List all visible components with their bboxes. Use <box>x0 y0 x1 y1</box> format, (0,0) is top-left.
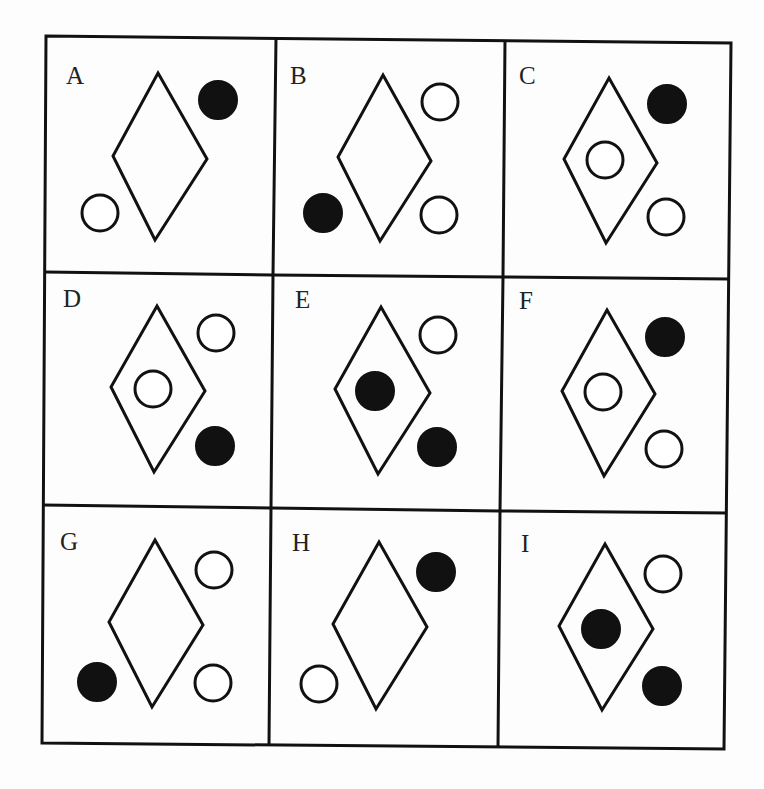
cell-label: I <box>521 530 529 557</box>
hollow-circle-bottom-right <box>195 665 231 701</box>
cell-i: I <box>521 530 681 710</box>
diamond-shape <box>109 540 203 707</box>
cell-label: H <box>292 529 310 556</box>
filled-circle-top-right <box>417 553 455 591</box>
filled-circle-bottom-right <box>643 667 681 705</box>
cell-c: C <box>519 62 686 243</box>
cell-label: G <box>60 528 78 555</box>
cell-e: E <box>295 286 456 474</box>
cell-label: B <box>290 62 307 89</box>
filled-circle-top-right <box>199 81 237 119</box>
cell-label: D <box>63 285 81 312</box>
filled-circle-inside-diamond <box>356 372 394 410</box>
filled-circle-bottom-right <box>196 427 234 465</box>
hollow-circle-inside-diamond <box>135 371 171 407</box>
filled-circle-bottom-right <box>418 428 456 466</box>
hollow-circle-bottom-right <box>421 197 457 233</box>
filled-circle-bottom-left <box>304 194 342 232</box>
filled-circle-top-right <box>648 85 686 123</box>
grid-row-divider-2 <box>43 505 727 513</box>
cell-label: C <box>519 62 536 89</box>
cell-label: E <box>295 286 310 313</box>
hollow-circle-top-right <box>198 315 234 351</box>
cell-label: F <box>519 287 533 314</box>
cell-f: F <box>519 287 684 476</box>
filled-circle-top-right <box>646 318 684 356</box>
cell-a: A <box>66 62 237 240</box>
hollow-circle-bottom-right <box>646 431 682 467</box>
hollow-circle-inside-diamond <box>587 142 623 178</box>
hollow-circle-bottom-left <box>301 666 337 702</box>
cell-label: A <box>66 62 84 89</box>
cell-g: G <box>60 528 232 707</box>
hollow-circle-top-right <box>420 317 456 353</box>
diamond-shape <box>113 73 207 240</box>
filled-circle-inside-diamond <box>582 610 620 648</box>
grid-col-divider-2 <box>498 40 505 747</box>
cells-layer: ABCDEFGHI <box>60 62 686 710</box>
hollow-circle-inside-diamond <box>585 374 621 410</box>
hollow-circle-top-right <box>645 556 681 592</box>
hollow-circle-top-right <box>422 84 458 120</box>
hollow-circle-top-right <box>196 552 232 588</box>
hollow-circle-bottom-right <box>648 199 684 235</box>
hollow-circle-bottom-left <box>82 195 118 231</box>
pattern-matrix: ABCDEFGHI <box>0 0 764 789</box>
diamond-shape <box>333 542 427 709</box>
grid-row-divider-1 <box>45 272 729 279</box>
cell-h: H <box>292 529 455 709</box>
diamond-shape <box>338 75 431 241</box>
filled-circle-bottom-left <box>78 663 116 701</box>
cell-b: B <box>290 62 458 241</box>
grid-col-divider-1 <box>269 38 276 745</box>
cell-d: D <box>63 285 234 472</box>
